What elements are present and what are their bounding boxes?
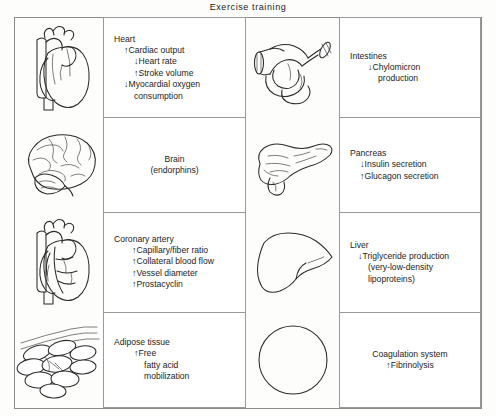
panel-text-intestines: Intestines ↓Chylomicron production	[350, 50, 474, 84]
effect-text: Capillary/fiber ratio	[137, 245, 209, 255]
effects-list-coronary-artery: ↑Capillary/fiber ratio ↑Collateral blood…	[114, 245, 239, 291]
effects-list-adipose-tissue: ↑Free fatty acid mobilization	[114, 349, 239, 383]
effect-text: Chylomicron	[373, 62, 421, 72]
effect-text: Heart rate	[139, 56, 177, 66]
text-panel-heart: Heart ↑Cardiac output ↓Heart rate ↑Strok…	[103, 17, 246, 118]
illustration-cell-liver	[246, 213, 340, 313]
effect-text: Myocardial oxygen	[129, 79, 201, 89]
effects-list-heart: ↑Cardiac output ↓Heart rate ↑Stroke volu…	[114, 45, 239, 102]
effect-item: consumption	[124, 90, 239, 101]
effect-item: ↑Free	[134, 349, 239, 360]
blood-cell-circle-illustration	[246, 313, 340, 408]
panel-grid: Heart ↑Cardiac output ↓Heart rate ↑Strok…	[14, 17, 482, 409]
effects-list-intestines: ↓Chylomicron production	[350, 62, 474, 85]
effect-item: ↑Cardiac output	[124, 45, 239, 56]
effect-item: ↑Fibrinolysis	[340, 360, 480, 371]
panel-text-adipose-tissue: Adipose tissue ↑Free fatty acid mobiliza…	[114, 337, 239, 383]
effect-text: (endorphins)	[150, 165, 198, 175]
effects-list-pancreas: ↓Insulin secretion ↑Glucagon secretion	[350, 159, 474, 182]
panel-text-brain: Brain (endorphins)	[104, 154, 245, 177]
panel-text-heart: Heart ↑Cardiac output ↓Heart rate ↑Strok…	[114, 33, 239, 101]
effect-item: ↓Heart rate	[124, 56, 239, 67]
illustration-cell-pancreas	[246, 118, 340, 213]
illustration-cell-intestines	[246, 18, 340, 118]
text-panel-pancreas: Pancreas ↓Insulin secretion ↑Glucagon se…	[339, 117, 481, 213]
effect-text: Free	[139, 349, 157, 359]
organ-name-coagulation-system: Coagulation system	[340, 349, 480, 360]
effect-text: Stroke volume	[139, 68, 194, 78]
effect-item: fatty acid	[134, 360, 239, 371]
illustration-cell-adipose-tissue	[15, 313, 104, 408]
effect-text: Triglyceride production	[363, 251, 450, 261]
effect-item: ↑Vessel diameter	[132, 268, 239, 279]
effect-text: production	[378, 73, 418, 83]
effect-item: ↓Triglyceride production	[358, 251, 474, 262]
illustration-cell-coagulation-system	[246, 313, 340, 408]
brain-lateral-illustration	[15, 118, 104, 213]
intestines-illustration	[246, 18, 340, 118]
effect-text: Cardiac output	[129, 45, 185, 55]
effect-item: ↑Stroke volume	[124, 68, 239, 79]
organ-name-adipose-tissue: Adipose tissue	[114, 337, 239, 348]
effect-text: Insulin secretion	[365, 159, 427, 169]
effect-text: Fibrinolysis	[391, 360, 434, 370]
panel-text-coronary-artery: Coronary artery ↑Capillary/fiber ratio ↑…	[114, 234, 239, 291]
panel-text-coagulation-system: Coagulation system ↑Fibrinolysis	[340, 349, 480, 372]
effect-text: mobilization	[144, 371, 189, 381]
pancreas-illustration	[246, 118, 340, 213]
illustration-cell-coronary-artery	[15, 213, 104, 313]
effect-text: Vessel diameter	[137, 268, 198, 278]
effect-item: ↑Capillary/fiber ratio	[132, 245, 239, 256]
text-panel-coronary-artery: Coronary artery ↑Capillary/fiber ratio ↑…	[103, 212, 246, 313]
organ-name-pancreas: Pancreas	[350, 148, 474, 159]
heart-anterior-illustration	[15, 18, 104, 118]
effect-item: ↓Insulin secretion	[360, 159, 474, 170]
text-panel-liver: Liver ↓Triglyceride production (very-low…	[339, 212, 481, 313]
effect-item: ↓Chylomicron	[368, 62, 474, 73]
effect-text: Prostacyclin	[137, 280, 183, 290]
text-panel-intestines: Intestines ↓Chylomicron production	[339, 17, 481, 118]
effect-item: (very-low-density	[358, 263, 474, 274]
text-panel-brain: Brain (endorphins)	[103, 117, 246, 213]
effect-text: Glucagon secretion	[365, 171, 439, 181]
effect-text: (very-low-density	[368, 263, 433, 273]
effect-item: ↓Myocardial oxygen	[124, 79, 239, 90]
exercise-training-figure: Exercise training	[0, 0, 496, 416]
effect-item: production	[368, 73, 474, 84]
organ-name-liver: Liver	[350, 240, 474, 251]
effects-list-brain: (endorphins)	[104, 165, 245, 176]
effect-item: ↑Glucagon secretion	[360, 171, 474, 182]
effect-text: consumption	[134, 90, 183, 100]
organ-name-heart: Heart	[114, 33, 239, 44]
effect-item: ↑Collateral blood flow	[132, 257, 239, 268]
adipose-tissue-illustration	[15, 313, 104, 408]
figure-title: Exercise training	[0, 2, 496, 12]
illustration-cell-heart	[15, 18, 104, 118]
organ-name-intestines: Intestines	[350, 50, 474, 61]
text-panel-coagulation-system: Coagulation system ↑Fibrinolysis	[339, 312, 481, 408]
illustration-cell-brain	[15, 118, 104, 213]
panel-text-liver: Liver ↓Triglyceride production (very-low…	[350, 240, 474, 286]
organ-name-coronary-artery: Coronary artery	[114, 234, 239, 245]
effect-item: mobilization	[134, 371, 239, 382]
text-panel-adipose-tissue: Adipose tissue ↑Free fatty acid mobiliza…	[103, 312, 246, 408]
organ-name-brain: Brain	[104, 154, 245, 165]
effect-item: lipoproteins)	[358, 274, 474, 285]
liver-illustration	[246, 213, 340, 313]
effect-item: (endorphins)	[104, 165, 245, 176]
panel-text-pancreas: Pancreas ↓Insulin secretion ↑Glucagon se…	[350, 148, 474, 182]
effects-list-coagulation-system: ↑Fibrinolysis	[340, 360, 480, 371]
effect-text: fatty acid	[144, 360, 178, 370]
effect-text: Collateral blood flow	[137, 257, 214, 267]
effect-text: lipoproteins)	[368, 274, 415, 284]
heart-coronary-vessels-illustration	[15, 213, 104, 313]
effects-list-liver: ↓Triglyceride production (very-low-densi…	[350, 251, 474, 285]
effect-item: ↑Prostacyclin	[132, 280, 239, 291]
